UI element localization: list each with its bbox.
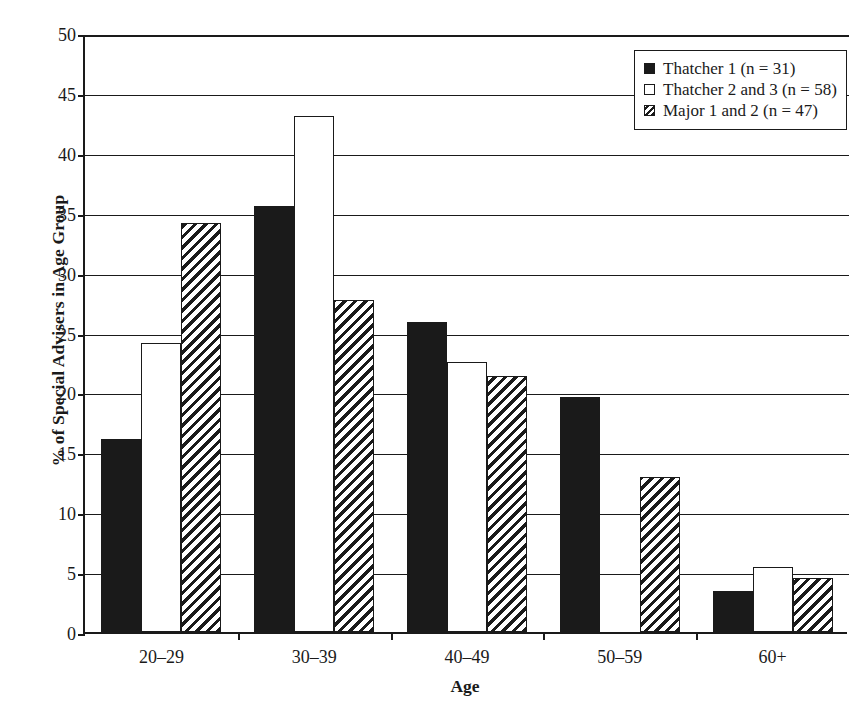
y-tick-label: 20 <box>16 385 76 403</box>
x-tick-label: 50–59 <box>540 648 700 666</box>
chart-legend: Thatcher 1 (n = 31)Thatcher 2 and 3 (n =… <box>634 50 847 130</box>
y-tick-mark <box>78 95 85 97</box>
legend-swatch-icon <box>644 84 655 95</box>
y-tick-label: 5 <box>16 565 76 583</box>
legend-item: Major 1 and 2 (n = 47) <box>644 100 837 121</box>
y-tick-label: 45 <box>16 86 76 104</box>
y-tick-label: 50 <box>16 26 76 44</box>
bar <box>407 322 447 632</box>
y-tick-label: 0 <box>16 625 76 643</box>
bar <box>101 439 141 632</box>
bar <box>294 116 334 632</box>
y-tick-mark <box>78 35 85 37</box>
legend-swatch-icon <box>644 63 655 74</box>
y-tick-mark <box>78 275 85 277</box>
bar-chart-figure: % of Special Advisers in Age Group 05101… <box>0 0 868 713</box>
bar <box>753 567 793 632</box>
x-tick-label: 30–39 <box>234 648 394 666</box>
bar <box>141 343 181 632</box>
bar <box>793 578 833 632</box>
x-tick-mark <box>391 632 393 640</box>
bar <box>447 362 487 632</box>
legend-swatch-icon <box>644 105 655 116</box>
bar <box>181 223 221 632</box>
legend-item: Thatcher 1 (n = 31) <box>644 58 837 79</box>
x-axis-title: Age <box>83 676 847 697</box>
y-tick-mark <box>78 574 85 576</box>
bar <box>560 397 600 632</box>
bar <box>334 300 374 632</box>
bar <box>487 376 527 632</box>
y-tick-label: 35 <box>16 206 76 224</box>
y-tick-label: 40 <box>16 146 76 164</box>
bar <box>713 591 753 632</box>
y-tick-label: 10 <box>16 505 76 523</box>
y-tick-mark <box>78 335 85 337</box>
legend-item: Thatcher 2 and 3 (n = 58) <box>644 79 837 100</box>
legend-label: Major 1 and 2 (n = 47) <box>663 102 818 119</box>
y-tick-label: 25 <box>16 326 76 344</box>
y-tick-label: 15 <box>16 445 76 463</box>
y-tick-label: 30 <box>16 266 76 284</box>
y-tick-mark <box>78 215 85 217</box>
x-tick-label: 60+ <box>693 648 853 666</box>
x-tick-mark <box>238 632 240 640</box>
bar-group <box>85 33 238 632</box>
legend-label: Thatcher 1 (n = 31) <box>663 60 795 77</box>
x-tick-mark <box>696 632 698 640</box>
bar <box>640 477 680 632</box>
y-tick-mark <box>78 394 85 396</box>
y-tick-mark <box>78 514 85 516</box>
bar <box>254 206 294 632</box>
x-tick-mark <box>543 632 545 640</box>
y-tick-mark <box>78 155 85 157</box>
y-tick-mark <box>78 634 85 636</box>
bar-group <box>238 33 391 632</box>
legend-label: Thatcher 2 and 3 (n = 58) <box>663 81 837 98</box>
y-tick-mark <box>78 454 85 456</box>
x-tick-label: 20–29 <box>81 648 241 666</box>
bar-group <box>391 33 544 632</box>
x-tick-label: 40–49 <box>387 648 547 666</box>
